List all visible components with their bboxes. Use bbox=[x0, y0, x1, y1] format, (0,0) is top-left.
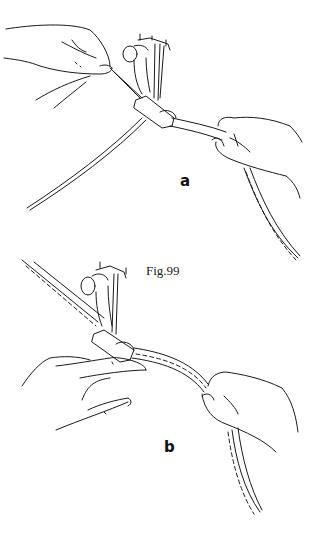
illustration-page: a Fig.99 bbox=[0, 0, 320, 536]
panel-b-label: b bbox=[164, 440, 175, 455]
fabric-strip-right-b bbox=[232, 430, 260, 512]
presser-foot-a bbox=[123, 34, 226, 140]
right-hand-b bbox=[202, 372, 298, 452]
panel-a-illustration bbox=[0, 0, 320, 270]
fabric-strip-mid-b bbox=[134, 348, 208, 384]
panel-a-label: a bbox=[180, 174, 190, 189]
figure-caption: Fig.99 bbox=[146, 263, 180, 279]
left-hand-a bbox=[4, 25, 112, 108]
left-hand-b bbox=[22, 357, 146, 430]
fabric-strip-left-a bbox=[27, 118, 142, 208]
presser-foot-b bbox=[81, 262, 134, 362]
